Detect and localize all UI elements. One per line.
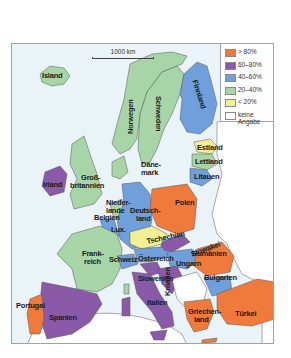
label-polen: Polen	[175, 199, 194, 207]
legend-item-gt80: > 80%	[225, 48, 274, 61]
label-spanien: Spanien	[49, 314, 77, 322]
label-daenemark: Däne-mark	[141, 161, 161, 177]
legend-swatch-none	[225, 112, 236, 120]
legend-label-none-line1: keine	[238, 111, 254, 118]
label-frankreich-line2: reich	[82, 257, 101, 266]
legend-item-40-60: 40–60%	[225, 73, 274, 86]
label-ungarn: Ungarn	[176, 260, 201, 268]
label-belgien: Belgien	[94, 214, 120, 222]
island-sardinien	[122, 297, 130, 316]
label-griechenland: Griechen-land	[188, 308, 221, 324]
label-tuerkei: Türkei	[235, 310, 256, 318]
label-estland: Estland	[197, 144, 223, 152]
scale-bar: 1000 km	[92, 51, 154, 59]
label-norwegen: Norwegen	[127, 99, 135, 134]
legend-swatch-40-60	[225, 74, 236, 82]
legend-label-40-60: 40–60%	[238, 73, 262, 81]
label-grossbritannien: Groß-britannien	[70, 174, 104, 190]
label-lettland: Lettland	[195, 158, 223, 166]
label-bulgarien: Bulgarien	[204, 274, 237, 282]
label-grossbritannien-line2: britannien	[70, 181, 104, 190]
label-deutschland: Deutsch-land	[130, 207, 161, 223]
legend-label-none: keineAngabe	[238, 111, 260, 126]
label-schweden: Schweden	[154, 96, 162, 132]
label-oesterreich: Österreich	[138, 255, 174, 263]
map-frame: 1000 km Island Norwegen Schweden Finnlan…	[11, 43, 274, 344]
legend-label-60-80: 60–80%	[238, 61, 262, 69]
label-rumaenien: Rumänien	[192, 250, 227, 258]
legend-item-20-40: 20–40%	[225, 86, 274, 99]
label-italien: Italien	[147, 299, 167, 307]
label-lux: Lux.	[111, 226, 126, 234]
label-deutschland-line2: land	[130, 214, 151, 223]
label-frankreich: Frank-reich	[82, 250, 104, 266]
legend-item-60-80: 60–80%	[225, 61, 274, 74]
country-daenemark	[112, 156, 128, 179]
island-kreta	[202, 338, 217, 343]
label-griechenland-line2: land	[188, 315, 209, 324]
country-portugal	[27, 294, 44, 334]
legend-swatch-60-80	[225, 62, 236, 70]
legend-swatch-20-40	[225, 87, 236, 95]
legend-item-lt20: < 20%	[225, 98, 274, 111]
legend-label-none-line2: Angabe	[238, 118, 260, 125]
legend-label-lt20: < 20%	[238, 98, 257, 106]
legend-swatch-gt80	[225, 49, 236, 57]
label-portugal: Portugal	[16, 302, 45, 310]
label-kroatien: Kroatien	[164, 267, 172, 296]
scale-label: 1000 km	[92, 48, 154, 55]
legend-label-gt80: > 80%	[238, 48, 257, 56]
legend-swatch-lt20	[225, 99, 236, 107]
label-schweiz: Schweiz	[109, 256, 137, 264]
legend-label-20-40: 20–40%	[238, 86, 262, 94]
label-irland: Irland	[43, 181, 62, 189]
label-litauen: Litauen	[194, 173, 219, 181]
label-daenemark-line2: mark	[141, 168, 158, 177]
island-korsika	[124, 284, 129, 294]
label-island: Island	[42, 72, 62, 80]
map-legend: > 80% 60–80% 40–60% 20–40% < 20% keineAn…	[220, 44, 274, 122]
scale-bar-line	[92, 57, 154, 59]
legend-item-none: keineAngabe	[225, 111, 274, 124]
